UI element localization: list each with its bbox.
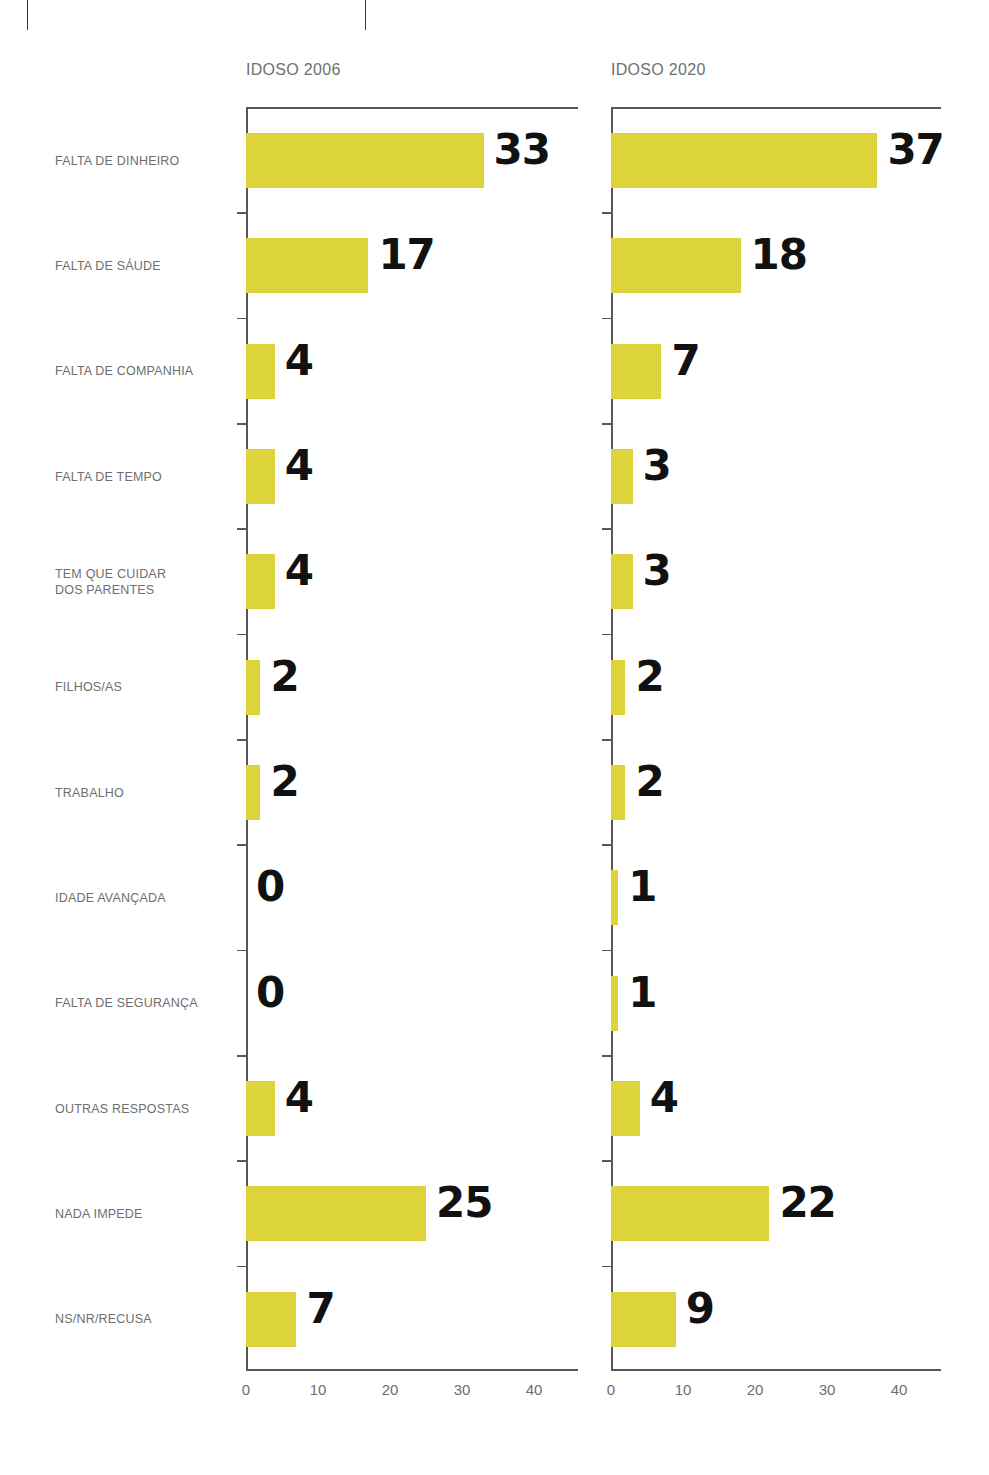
bar [611, 976, 618, 1031]
bar-row: 37 [611, 107, 941, 212]
category-label-line: FALTA DE TEMPO [55, 469, 230, 485]
bar [611, 660, 625, 715]
y-axis-tick [237, 739, 246, 741]
bar [246, 133, 484, 188]
bar-value-label: 4 [285, 547, 313, 595]
y-axis-tick [237, 528, 246, 530]
bar-row: 2 [246, 739, 578, 844]
bar-row: 25 [246, 1160, 578, 1265]
bar-value-label: 25 [436, 1179, 492, 1227]
x-axis-tick-label: 30 [454, 1381, 471, 1398]
category-label: FALTA DE TEMPO [55, 469, 230, 485]
bar-value-label: 22 [779, 1179, 835, 1227]
panel-title-2006: IDOSO 2006 [246, 61, 341, 79]
panel-title-2020: IDOSO 2020 [611, 61, 706, 79]
bar [246, 1186, 426, 1241]
bar-value-label: 1 [628, 969, 656, 1017]
category-label: FILHOS/AS [55, 679, 230, 695]
bar [246, 660, 260, 715]
y-axis-tick [237, 1266, 246, 1268]
x-axis-tick-label: 30 [819, 1381, 836, 1398]
y-axis-tick [237, 423, 246, 425]
bar-row: 1 [611, 844, 941, 949]
category-label-line: FALTA DE SEGURANÇA [55, 995, 230, 1011]
y-axis-tick [237, 212, 246, 214]
crop-mark-right [365, 0, 366, 30]
bar-value-label: 17 [378, 231, 434, 279]
bar-row: 9 [611, 1266, 941, 1371]
y-axis-tick [237, 634, 246, 636]
y-axis-tick [237, 844, 246, 846]
bar [246, 765, 260, 820]
bar-row: 0 [246, 950, 578, 1055]
bar [611, 1081, 640, 1136]
category-label-line: FALTA DE COMPANHIA [55, 363, 230, 379]
bar-row: 7 [611, 318, 941, 423]
y-axis-tick [602, 318, 611, 320]
bar [246, 554, 275, 609]
bar-row: 33 [246, 107, 578, 212]
bar-row: 22 [611, 1160, 941, 1265]
x-axis-tick-label: 20 [382, 1381, 399, 1398]
bar [246, 449, 275, 504]
bar [611, 554, 633, 609]
category-label-line: TRABALHO [55, 785, 230, 801]
y-axis-tick [237, 1160, 246, 1162]
category-label-column: FALTA DE DINHEIROFALTA DE SÁUDEFALTA DE … [55, 107, 230, 1371]
y-axis-tick [237, 1055, 246, 1057]
bar-row: 4 [611, 1055, 941, 1160]
bar-value-label: 0 [256, 863, 284, 911]
bar-row: 4 [246, 1055, 578, 1160]
bar-row: 2 [611, 634, 941, 739]
x-axis-tick-label: 20 [747, 1381, 764, 1398]
bar-value-label: 4 [285, 337, 313, 385]
bar-row: 4 [246, 423, 578, 528]
bar-value-label: 0 [256, 969, 284, 1017]
bar [246, 1292, 296, 1347]
category-label-line: TEM QUE CUIDAR [55, 566, 230, 582]
category-label-line: OUTRAS RESPOSTAS [55, 1101, 230, 1117]
bar-row: 0 [246, 844, 578, 949]
bar [246, 1081, 275, 1136]
category-label-line: FALTA DE SÁUDE [55, 258, 230, 274]
bar-value-label: 37 [887, 126, 943, 174]
y-axis-tick [602, 1266, 611, 1268]
category-label: IDADE AVANÇADA [55, 890, 230, 906]
bar [611, 870, 618, 925]
category-label: OUTRAS RESPOSTAS [55, 1101, 230, 1117]
y-axis-tick [602, 1055, 611, 1057]
bar [246, 238, 368, 293]
x-axis-tick-label: 10 [310, 1381, 327, 1398]
category-label: NS/NR/RECUSA [55, 1311, 230, 1327]
bar [611, 1292, 676, 1347]
y-axis-tick [602, 844, 611, 846]
category-label-line: NS/NR/RECUSA [55, 1311, 230, 1327]
category-label: FALTA DE SÁUDE [55, 258, 230, 274]
bar [246, 344, 275, 399]
chart-panel-idoso-2006: IDOSO 2006 331744422004257 [246, 107, 578, 1371]
bar [611, 449, 633, 504]
bar [611, 238, 741, 293]
bar [611, 344, 661, 399]
x-axis-tick-label: 10 [675, 1381, 692, 1398]
bar-value-label: 2 [270, 653, 298, 701]
bar-row: 3 [611, 528, 941, 633]
bar-value-label: 7 [306, 1285, 334, 1333]
category-label: FALTA DE COMPANHIA [55, 363, 230, 379]
bar-value-label: 4 [285, 442, 313, 490]
bar-value-label: 9 [686, 1285, 714, 1333]
bar [611, 1186, 769, 1241]
bar-value-label: 3 [643, 547, 671, 595]
bar-value-label: 33 [494, 126, 550, 174]
chart-panel-idoso-2020: IDOSO 2020 371873322114229 [611, 107, 941, 1371]
x-axis-tick-label: 0 [242, 1381, 250, 1398]
category-label: TEM QUE CUIDARDOS PARENTES [55, 566, 230, 598]
y-axis-tick [602, 950, 611, 952]
bar-value-label: 4 [650, 1074, 678, 1122]
x-axis-tick-label: 40 [526, 1381, 543, 1398]
category-label: FALTA DE SEGURANÇA [55, 995, 230, 1011]
y-axis-tick [237, 318, 246, 320]
y-axis-tick [602, 423, 611, 425]
bar-row: 7 [246, 1266, 578, 1371]
bar-value-label: 2 [635, 653, 663, 701]
